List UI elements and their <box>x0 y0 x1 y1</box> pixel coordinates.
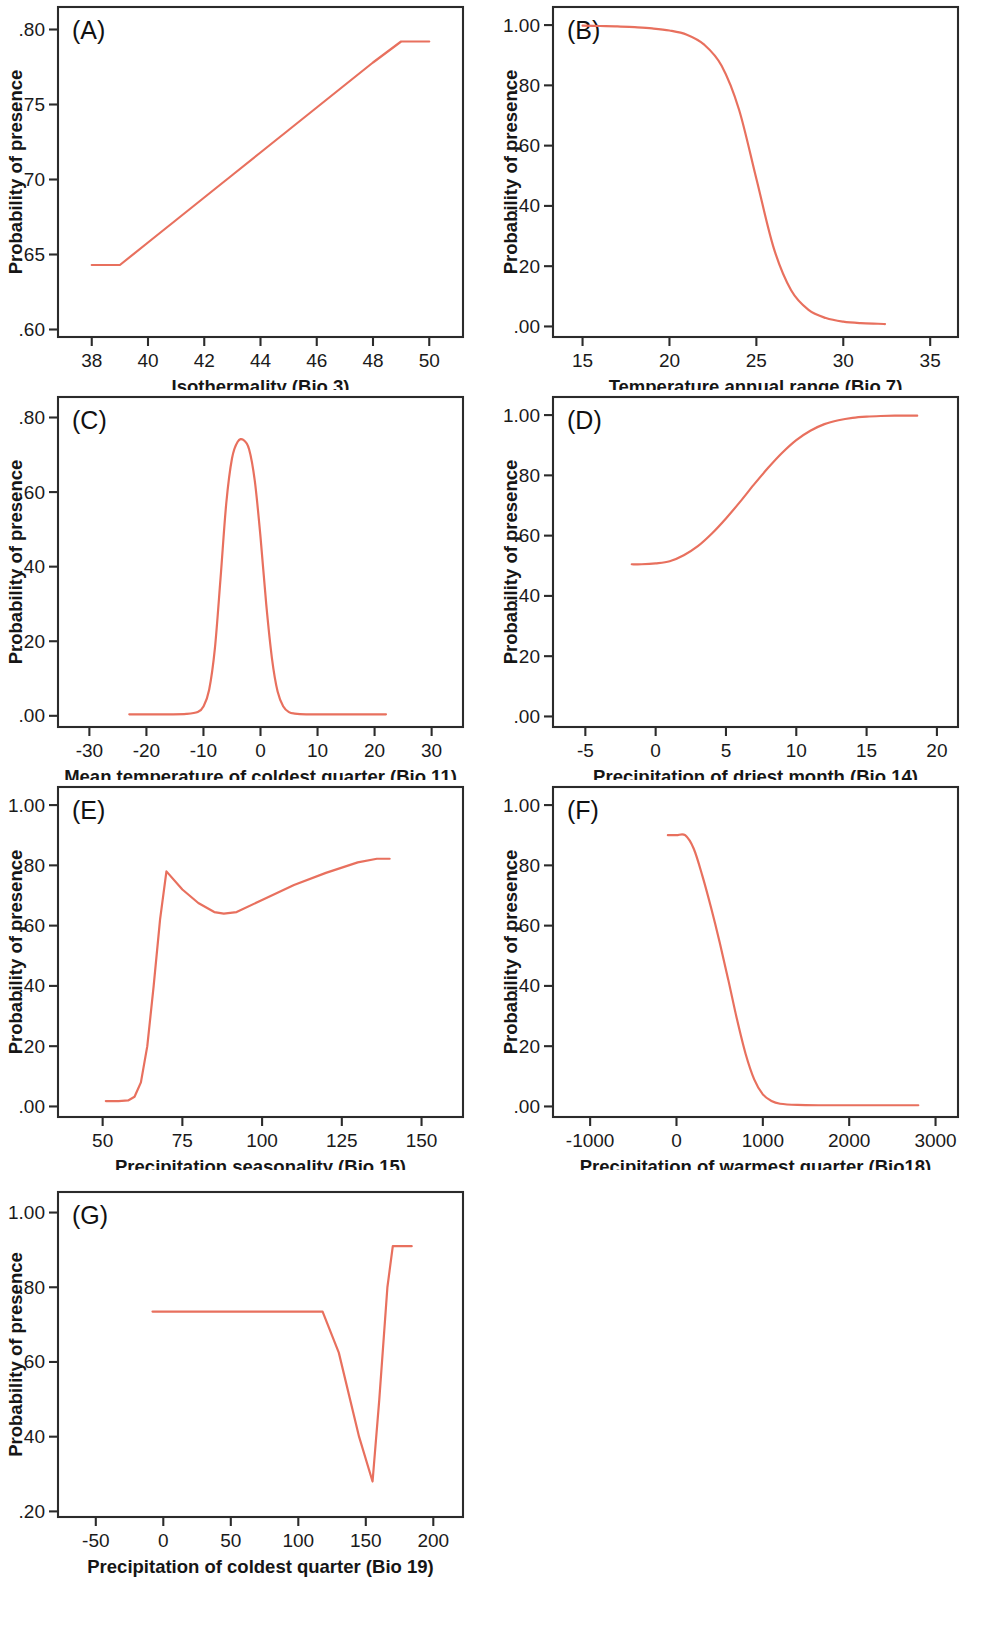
response-curve-c <box>129 439 386 714</box>
x-axis-title-d: Precipitation of driest month (Bio 14) <box>593 766 918 780</box>
panel-d: .00.20.40.60.801.00-505101520(D)Probabil… <box>495 390 990 780</box>
x-axis-title-e: Precipitation seasonality (Bio 15) <box>115 1156 406 1170</box>
plot-frame-c <box>58 397 463 727</box>
x-tick-label-b-1: 20 <box>659 350 680 371</box>
panel-letter-f: (F) <box>567 796 599 824</box>
x-axis-title-c: Mean temperature of coldest quarter (Bio… <box>64 766 457 780</box>
y-axis-title-b: Probability of presence <box>500 70 521 275</box>
plot-frame-g <box>58 1192 463 1517</box>
plot-frame-d <box>553 397 958 727</box>
x-tick-label-e-2: 100 <box>246 1130 278 1151</box>
y-axis-title-c: Probability of presence <box>5 460 26 665</box>
x-tick-label-f-4: 3000 <box>914 1130 956 1151</box>
plot-frame-f <box>553 787 958 1117</box>
x-tick-label-e-0: 50 <box>92 1130 113 1151</box>
panel-e: .00.20.40.60.801.005075100125150(E)Proba… <box>0 780 495 1170</box>
x-tick-label-g-4: 150 <box>350 1530 382 1551</box>
x-tick-label-f-3: 2000 <box>828 1130 870 1151</box>
plot-area-e: .00.20.40.60.801.005075100125150(E)Proba… <box>0 780 495 1170</box>
x-tick-label-e-4: 150 <box>406 1130 438 1151</box>
plot-area-a: .60.65.70.75.8038404244464850(A)Probabil… <box>0 0 495 390</box>
response-curve-figure: .60.65.70.75.8038404244464850(A)Probabil… <box>0 0 990 1640</box>
x-tick-label-f-2: 1000 <box>742 1130 784 1151</box>
y-tick-label-b-0: .00 <box>514 316 540 337</box>
x-tick-label-g-3: 100 <box>282 1530 314 1551</box>
x-tick-label-e-3: 125 <box>326 1130 358 1151</box>
panel-letter-d: (D) <box>567 406 602 434</box>
y-axis-title-f: Probability of presence <box>500 850 521 1055</box>
x-tick-label-d-2: 5 <box>721 740 732 761</box>
plot-area-f: .00.20.40.60.801.00-10000100020003000(F)… <box>495 780 990 1170</box>
x-tick-label-a-1: 40 <box>137 350 158 371</box>
plot-area-c: .00.20.40.60.80-30-20-100102030(C)Probab… <box>0 390 495 780</box>
x-tick-label-a-2: 42 <box>194 350 215 371</box>
x-tick-label-g-1: 0 <box>158 1530 169 1551</box>
plot-frame-e <box>58 787 463 1117</box>
y-axis-title-g: Probability of presence <box>5 1252 26 1457</box>
x-tick-label-g-5: 200 <box>417 1530 449 1551</box>
panel-g: .20.40.60.801.00-50050100150200(G)Probab… <box>0 1170 495 1640</box>
x-tick-label-d-1: 0 <box>650 740 661 761</box>
x-tick-label-g-0: -50 <box>82 1530 109 1551</box>
x-tick-label-c-2: -10 <box>190 740 217 761</box>
x-axis-title-f: Precipitation of warmest quarter (Bio18) <box>580 1156 932 1170</box>
x-axis-title-b: Temperature annual range (Bio 7) <box>609 376 903 390</box>
x-tick-label-a-3: 44 <box>250 350 272 371</box>
x-tick-label-f-0: -1000 <box>566 1130 615 1151</box>
y-tick-label-e-5: 1.00 <box>8 795 45 816</box>
x-tick-label-c-0: -30 <box>76 740 103 761</box>
x-tick-label-a-4: 46 <box>306 350 327 371</box>
panel-letter-b: (B) <box>567 16 600 44</box>
x-tick-label-c-1: -20 <box>133 740 160 761</box>
plot-area-b: .00.20.40.60.801.001520253035(B)Probabil… <box>495 0 990 390</box>
y-axis-title-e: Probability of presence <box>5 850 26 1055</box>
x-axis-title-g: Precipitation of coldest quarter (Bio 19… <box>87 1556 433 1577</box>
panel-a: .60.65.70.75.8038404244464850(A)Probabil… <box>0 0 495 390</box>
x-tick-label-c-4: 10 <box>307 740 328 761</box>
x-tick-label-a-0: 38 <box>81 350 102 371</box>
x-tick-label-g-2: 50 <box>220 1530 241 1551</box>
response-curve-g <box>153 1246 412 1481</box>
y-tick-label-a-0: .60 <box>19 319 45 340</box>
y-tick-label-b-5: 1.00 <box>503 15 540 36</box>
x-tick-label-c-3: 0 <box>255 740 266 761</box>
x-tick-label-b-0: 15 <box>572 350 593 371</box>
x-tick-label-d-5: 20 <box>926 740 947 761</box>
y-tick-label-e-0: .00 <box>19 1096 45 1117</box>
x-tick-label-a-5: 48 <box>362 350 383 371</box>
x-tick-label-f-1: 0 <box>671 1130 682 1151</box>
x-tick-label-b-2: 25 <box>746 350 767 371</box>
x-tick-label-c-5: 20 <box>364 740 385 761</box>
panel-c: .00.20.40.60.80-30-20-100102030(C)Probab… <box>0 390 495 780</box>
y-tick-label-d-0: .00 <box>514 706 540 727</box>
y-tick-label-f-0: .00 <box>514 1096 540 1117</box>
plot-area-g: .20.40.60.801.00-50050100150200(G)Probab… <box>0 1170 495 1640</box>
response-curve-b <box>583 26 885 324</box>
x-tick-label-b-3: 30 <box>833 350 854 371</box>
panel-letter-c: (C) <box>72 406 107 434</box>
y-tick-label-f-5: 1.00 <box>503 795 540 816</box>
plot-frame-a <box>58 7 463 337</box>
y-tick-label-c-0: .00 <box>19 705 45 726</box>
x-axis-title-a: Isothermality (Bio 3) <box>172 376 350 390</box>
plot-area-d: .00.20.40.60.801.00-505101520(D)Probabil… <box>495 390 990 780</box>
y-tick-label-g-4: 1.00 <box>8 1202 45 1223</box>
x-tick-label-c-6: 30 <box>421 740 442 761</box>
panel-b: .00.20.40.60.801.001520253035(B)Probabil… <box>495 0 990 390</box>
y-tick-label-c-4: .80 <box>19 407 45 428</box>
x-tick-label-a-6: 50 <box>419 350 440 371</box>
response-curve-f <box>668 834 918 1105</box>
y-tick-label-a-4: .80 <box>19 19 45 40</box>
x-tick-label-d-4: 15 <box>856 740 877 761</box>
response-curve-e <box>106 859 390 1101</box>
y-tick-label-g-0: .20 <box>19 1501 45 1522</box>
panel-letter-g: (G) <box>72 1201 108 1229</box>
panel-letter-e: (E) <box>72 796 105 824</box>
x-tick-label-d-0: -5 <box>577 740 594 761</box>
response-curve-a <box>92 42 430 266</box>
response-curve-d <box>632 416 917 565</box>
y-axis-title-a: Probability of presence <box>5 70 26 275</box>
panel-letter-a: (A) <box>72 16 105 44</box>
x-tick-label-b-4: 35 <box>920 350 941 371</box>
panel-f: .00.20.40.60.801.00-10000100020003000(F)… <box>495 780 990 1170</box>
